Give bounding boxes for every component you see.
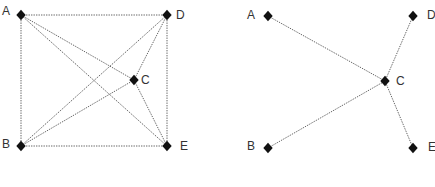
edge-d-c [385, 16, 413, 81]
node-b-diamond-icon [263, 143, 272, 153]
edge-a-c [21, 15, 134, 80]
complete-graph: ADCBE [2, 4, 188, 153]
node-label-a: A [247, 8, 255, 22]
node-label-d: D [427, 8, 435, 22]
edge-a-c [268, 16, 385, 81]
node-label-a: A [2, 4, 10, 18]
node-label-c: C [396, 74, 405, 88]
node-e-diamond-icon [408, 143, 417, 153]
node-b-diamond-icon [16, 141, 25, 151]
edge-b-c [21, 80, 134, 146]
node-label-e: E [180, 139, 188, 153]
edge-e-c [385, 81, 413, 148]
edge-c-e [134, 80, 167, 146]
node-label-c: C [141, 73, 150, 87]
node-label-d: D [176, 8, 185, 22]
star-graph: ADCBE [247, 8, 435, 154]
edge-b-c [268, 81, 385, 148]
node-d-diamond-icon [162, 10, 171, 20]
edge-d-c [134, 15, 167, 80]
node-label-b: B [247, 139, 255, 153]
node-e-diamond-icon [162, 141, 171, 151]
node-label-b: B [2, 137, 10, 151]
graph-diagram: ADCBE ADCBE [0, 0, 435, 187]
node-c-diamond-icon [380, 76, 389, 86]
node-label-e: E [428, 140, 435, 154]
node-a-diamond-icon [263, 11, 272, 21]
node-d-diamond-icon [408, 11, 417, 21]
node-c-diamond-icon [129, 75, 138, 85]
node-a-diamond-icon [16, 10, 25, 20]
